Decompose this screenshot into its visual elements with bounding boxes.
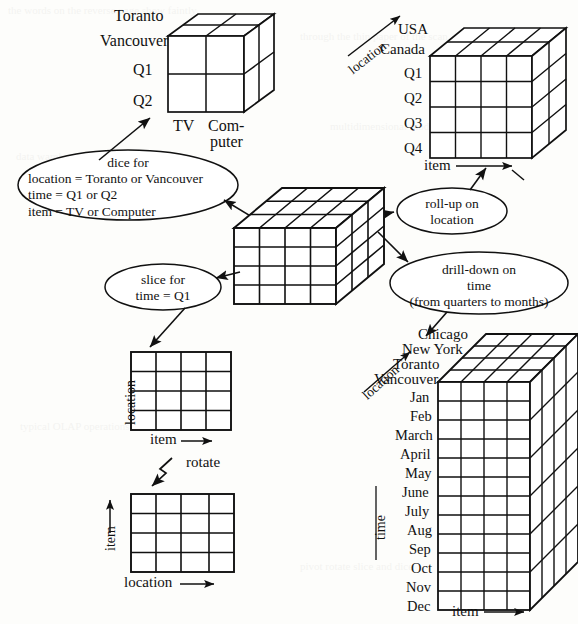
arrow-rollup-to-cube — [470, 168, 486, 190]
rollup-item-axis-tail — [512, 170, 524, 180]
dice-cube-shape — [168, 14, 274, 112]
drilldown-note-line-1: drill-down on — [394, 262, 564, 278]
rollup-note: roll-up on location — [402, 196, 502, 228]
drilldown-month-nov: Nov — [406, 580, 431, 595]
olap-diagram: the words on the reverse page show faint… — [0, 0, 578, 624]
rollup-row-label-q2: Q2 — [404, 91, 422, 107]
drilldown-month-july: July — [405, 504, 429, 519]
drilldown-month-june: June — [402, 485, 429, 500]
dice-row-label-q1: Q1 — [133, 62, 153, 79]
rollup-note-line-1: roll-up on — [402, 196, 502, 212]
rotate-arrow — [152, 458, 172, 486]
drilldown-item-axis-label: item — [452, 604, 479, 620]
rollup-top-label-usa: USA — [398, 22, 428, 38]
drilldown-month-may: May — [405, 466, 432, 481]
dice-note-line-3: time = Q1 or Q2 — [28, 187, 228, 203]
slice-note: slice for time = Q1 — [113, 272, 213, 304]
rollup-note-line-2: location — [402, 212, 502, 228]
diagram-linework — [0, 0, 578, 624]
dice-row-label-q2: Q2 — [133, 93, 153, 110]
arrow-slice-to-grid — [150, 308, 185, 347]
slice-item-axis-label: item — [150, 432, 177, 448]
drilldown-month-sep: Sep — [409, 542, 431, 557]
slice-note-line-1: slice for — [113, 272, 213, 288]
drilldown-top-label-vancouver: Vancouver — [374, 372, 438, 388]
dice-note-line-4: item = TV or Computer — [28, 204, 228, 220]
slice-location-axis-label: location — [124, 380, 139, 425]
drilldown-month-dec: Dec — [407, 599, 430, 614]
rotate-location-axis-label: location — [124, 575, 172, 591]
dice-note-line-1: dice for — [28, 155, 228, 171]
drilldown-month-oct: Oct — [411, 561, 432, 576]
dice-top-label-toranto: Toranto — [114, 8, 164, 25]
drilldown-cube-shape — [438, 334, 578, 610]
center-cube-shape — [234, 188, 384, 304]
rollup-cube-shape — [430, 28, 566, 158]
drilldown-note-line-3: (from quarters to months) — [394, 294, 564, 310]
dice-top-label-vancouver: Vancouver — [100, 33, 168, 50]
drilldown-time-axis-label: time — [374, 515, 389, 540]
drilldown-month-jan: Jan — [410, 390, 429, 405]
rollup-row-label-q4: Q4 — [404, 141, 422, 157]
drilldown-month-april: April — [400, 447, 431, 462]
slice-grid-shape — [131, 352, 231, 430]
rollup-top-label-canada: Canada — [380, 42, 425, 58]
dice-col-label-tv: TV — [173, 118, 194, 135]
drilldown-note: drill-down on time (from quarters to mon… — [394, 262, 564, 311]
rollup-item-axis-label: item — [424, 158, 451, 174]
drilldown-month-march: March — [395, 428, 433, 443]
slice-note-line-2: time = Q1 — [113, 288, 213, 304]
rotate-grid-shape — [131, 494, 234, 572]
drilldown-month-feb: Feb — [410, 409, 432, 424]
dice-note-line-2: location = Toranto or Vancouver — [28, 171, 228, 187]
dice-col-label-computer-2: puter — [210, 134, 243, 151]
rollup-row-label-q1: Q1 — [404, 66, 422, 82]
rotate-label: rotate — [186, 455, 220, 471]
rotate-item-axis-label: item — [104, 526, 119, 551]
rollup-row-label-q3: Q3 — [404, 116, 422, 132]
dice-note: dice for location = Toranto or Vancouver… — [28, 155, 228, 220]
drilldown-note-line-2: time — [394, 278, 564, 294]
drilldown-month-aug: Aug — [407, 523, 432, 538]
